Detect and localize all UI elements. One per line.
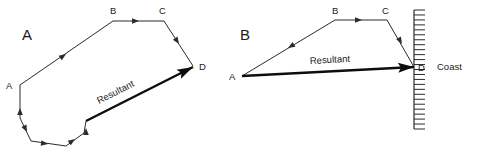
panel-a-return-path [20,85,86,146]
panel-b-leg-arrowheads [287,17,405,50]
panel-b-resultant-line [242,67,414,76]
panel-a-leg-path [20,21,193,85]
panel-a-resultant: Resultant [86,63,195,121]
panel-a-vertex-label-a: A [6,80,13,91]
panel-a-label: A [22,26,32,43]
leg-arrow-ba [287,42,296,50]
panel-b-resultant: Resultant [242,53,414,76]
vector-diagram-svg: A Resultant A B C D B [0,0,479,160]
panel-a: A Resultant A B C D [6,5,206,147]
leg-arrow-bc [132,18,139,24]
panel-b-vertex-label-b: B [332,5,338,16]
panel-b: B Resultant Coast A B C D [229,5,462,129]
panel-b-vertex-label-c: C [382,5,389,16]
panel-a-leg-arrowheads [17,18,181,147]
panel-b-vertex-label-a: A [229,71,236,82]
panel-b-resultant-label: Resultant [310,53,351,66]
coast-label: Coast [437,61,462,72]
panel-a-vertex-label-d: D [199,61,206,72]
panel-b-vertex-label-d: D [418,62,425,73]
panel-a-vertex-label-b: B [110,5,116,16]
panel-a-resultant-label: Resultant [95,78,136,106]
panel-a-vertex-label-c: C [159,5,166,16]
leg-arrow-cd [173,37,182,46]
figure-root: A Resultant A B C D B [0,0,479,160]
leg-arrow-a-down [17,108,23,115]
leg-arrow-bc [355,17,362,23]
panel-b-label: B [240,26,250,43]
leg-arrow-down-left [21,124,29,133]
